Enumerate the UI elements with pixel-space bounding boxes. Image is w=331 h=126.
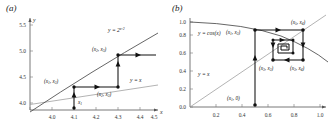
- x-tick-label: 4.4: [137, 114, 144, 120]
- y-ticks: [30, 25, 33, 103]
- y-tick-label: 5.0: [19, 48, 26, 54]
- point-label-x2x3: (x2, x3): [92, 46, 107, 53]
- y-tick-label: 1.0: [179, 19, 186, 25]
- x-axis-arrow: [322, 105, 326, 108]
- point-label-x1x2: (x1, x2): [226, 29, 241, 36]
- y-tick-label: 5.5: [19, 22, 26, 28]
- y-tick-label: 0.6: [179, 50, 186, 56]
- y-axis-label: y: [32, 17, 36, 23]
- curve-label-exponential: y = 2x-2: [107, 27, 125, 33]
- y-ticks: [190, 22, 193, 107]
- y-tick-label: 4.5: [19, 74, 26, 80]
- x-tick-label: 4.1: [71, 114, 78, 120]
- cobweb-point: [116, 53, 119, 56]
- panel-a-plot: 4.0 4.1 4.2 4.3 4.4 4.5 4.0 4.5 5.0 5.5 …: [0, 0, 166, 126]
- y-tick-label: 0.4: [179, 68, 186, 74]
- y-axis-arrow: [28, 18, 31, 22]
- exponential-curve: [30, 33, 158, 112]
- figure-root: (a) 4.0 4.1 4.2 4.3 4.4 4.5: [0, 0, 331, 126]
- x-axis-arrow: [154, 108, 158, 111]
- axis-point-label-x1-0: (x1, 0): [227, 95, 240, 102]
- x-tick-label: 0.6: [265, 112, 272, 118]
- identity-line: [190, 15, 326, 107]
- x-tick-label: 4.2: [93, 114, 100, 120]
- x-ticks: [216, 104, 320, 107]
- y-tick-label: 4.0: [19, 100, 26, 106]
- point-label-x3x4: (x3, x4): [290, 65, 305, 72]
- panel-b-plot: 0.2 0.4 0.6 0.8 1.0 0.0 0.2 0.4 0.6 0.8 …: [166, 0, 331, 126]
- point-label-x1x2: (x1, x2): [44, 78, 59, 85]
- cobweb-arrowheads: [253, 28, 306, 63]
- cobweb-point: [72, 85, 75, 88]
- point-label-x2x2: (x2, x2): [97, 91, 112, 98]
- x-tick-label: 4.0: [49, 114, 56, 120]
- x-tick-label: 1.0: [317, 112, 324, 118]
- point-label-x3x2: (x3, x2): [259, 65, 274, 72]
- panel-a-tag: (a): [6, 3, 17, 13]
- x-tick-label: 0.2: [213, 112, 220, 118]
- panel-b-tag: (b): [172, 3, 183, 13]
- x-tick-label: 0.4: [239, 112, 246, 118]
- y-tick-label: 0.8: [179, 32, 186, 38]
- panel-b: (b) 0.2 0.4 0.6 0.8 1.0: [166, 0, 331, 126]
- cobweb-path: [74, 55, 156, 108]
- y-tick-label: 0.0: [179, 104, 186, 110]
- line-label-identity: y = x: [129, 77, 142, 83]
- identity-line: [30, 85, 158, 105]
- y-tick-label: 0.2: [179, 86, 186, 92]
- x-tick-label: 4.3: [115, 114, 122, 120]
- x-axis-label: x: [159, 109, 163, 115]
- axis-point-label-x1: x1: [77, 99, 82, 106]
- point-label-x5x4: (x5, x4): [291, 19, 306, 26]
- curve-label-cosine: y = cos(x): [197, 30, 221, 37]
- x-tick-label: 4.5: [151, 114, 158, 120]
- x-ticks: [30, 107, 140, 110]
- line-label-identity: y = x: [197, 71, 210, 77]
- x-tick-label: 0.8: [291, 112, 298, 118]
- cobweb-point: [72, 106, 75, 109]
- panel-a: (a) 4.0 4.1 4.2 4.3 4.4 4.5: [0, 0, 166, 126]
- cobweb-point: [116, 85, 119, 88]
